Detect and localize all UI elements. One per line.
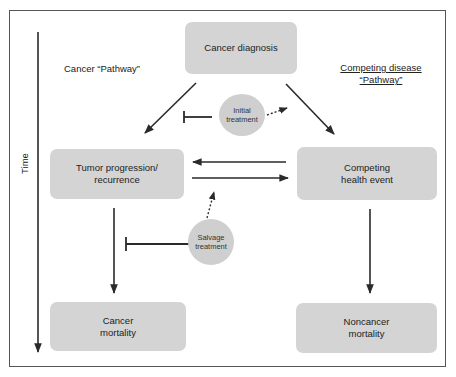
time-axis-label: Time xyxy=(19,153,30,174)
initial-treatment-node: Initial treatment xyxy=(219,94,265,136)
arrow-diagnosis-to-progression xyxy=(145,83,196,133)
salvage-treatment-node: Salvage treatment xyxy=(188,219,234,265)
competing-pathway-label: Competing disease “Pathway” xyxy=(326,62,436,86)
cancer-pathway-label: Cancer “Pathway” xyxy=(64,63,140,75)
salvage-treatment-dotted-arrow xyxy=(207,192,214,218)
node-cancer-diagnosis: Cancer diagnosis xyxy=(185,22,297,74)
node-noncancer-mortality: Noncancer mortality xyxy=(296,303,437,353)
node-competing-health-event: Competing health event xyxy=(297,147,437,200)
initial-treatment-dotted-arrow xyxy=(267,108,287,115)
node-cancer-mortality: Cancer mortality xyxy=(50,302,186,351)
node-tumor-progression: Tumor progression/ recurrence xyxy=(50,149,184,199)
arrow-diagnosis-to-competing xyxy=(286,84,334,134)
initial-treatment-inhibitor xyxy=(184,111,212,123)
